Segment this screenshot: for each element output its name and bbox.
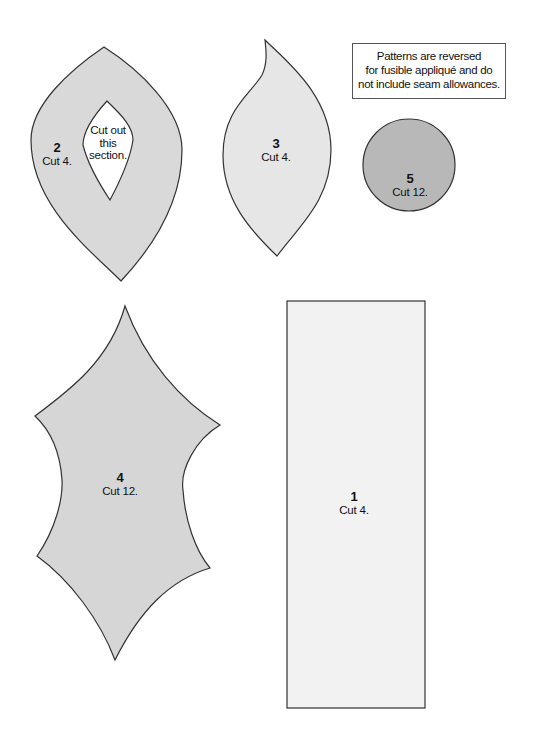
piece-instruction: Cut 4. [339, 504, 368, 516]
piece-5-label: 5 Cut 12. [392, 172, 428, 198]
piece-number: 1 [339, 490, 368, 504]
instruction-note: Patterns are reversed for fusible appliq… [352, 43, 506, 99]
cutout-line-1: Cut out [89, 124, 127, 137]
cutout-label: Cut out this section. [89, 124, 127, 162]
note-line-1: Patterns are reversed [358, 50, 500, 64]
note-line-2: for fusible appliqué and do [358, 64, 500, 78]
piece-instruction: Cut 12. [392, 186, 428, 198]
piece-4-label: 4 Cut 12. [102, 471, 138, 497]
piece-instruction: Cut 12. [102, 485, 138, 497]
piece-number: 4 [102, 471, 138, 485]
note-line-3: not include seam allowances. [358, 78, 500, 92]
cutout-line-2: this [89, 137, 127, 150]
piece-number: 5 [392, 172, 428, 186]
piece-instruction: Cut 4. [42, 155, 71, 167]
piece-instruction: Cut 4. [261, 151, 290, 163]
piece-1-label: 1 Cut 4. [339, 490, 368, 516]
cutout-line-3: section. [89, 149, 127, 162]
piece-2-label: 2 Cut 4. [42, 141, 71, 167]
piece-number: 2 [42, 141, 71, 155]
pattern-canvas [0, 0, 542, 738]
piece-3-label: 3 Cut 4. [261, 137, 290, 163]
piece-number: 3 [261, 137, 290, 151]
